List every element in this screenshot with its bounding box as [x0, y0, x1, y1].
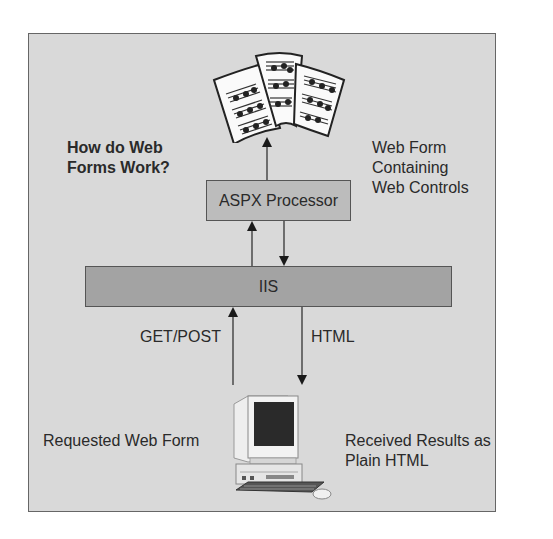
sheet-music-pages-icon	[210, 48, 350, 147]
get-post-label: GET/POST	[140, 327, 221, 346]
requested-web-form-label: Requested Web Form	[43, 431, 199, 450]
received-label-line-2: Plain HTML	[345, 451, 491, 471]
received-results-label: Received Results as Plain HTML	[345, 431, 491, 471]
aspx-processor-label: ASPX Processor	[219, 192, 338, 210]
iis-box: IIS	[85, 266, 452, 307]
iis-label: IIS	[259, 278, 279, 296]
received-label-line-1: Received Results as	[345, 431, 491, 451]
html-label: HTML	[311, 327, 355, 346]
diagram-title: How do Web Forms Work?	[67, 138, 170, 178]
aspx-processor-box: ASPX Processor	[206, 180, 351, 221]
web-form-label: Web Form Containing Web Controls	[372, 138, 469, 198]
desktop-computer-icon	[228, 390, 338, 504]
title-line-1: How do Web	[67, 138, 170, 158]
web-form-label-line-1: Web Form	[372, 138, 469, 158]
web-form-label-line-2: Containing	[372, 158, 469, 178]
web-form-label-line-3: Web Controls	[372, 178, 469, 198]
title-line-2: Forms Work?	[67, 158, 170, 178]
